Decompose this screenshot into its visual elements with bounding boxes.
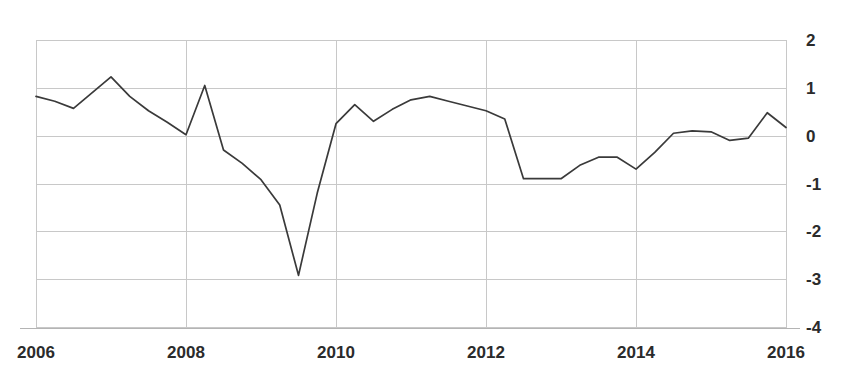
plot-area-border [36,40,786,327]
y-tick-label--2: -2 [806,222,821,241]
y-tick-label-1: 1 [806,79,815,98]
y-tick-label-0: 0 [806,127,815,146]
vertical-gridlines [37,40,787,327]
x-tick-label-2008: 2008 [167,343,205,362]
y-tick-label--1: -1 [806,175,821,194]
x-tick-label-2010: 2010 [317,343,355,362]
horizontal-gridlines [36,41,786,328]
y-axis-tick-labels: 210-1-2-3-4 [806,31,822,337]
y-tick-label--4: -4 [806,318,822,337]
chart-canvas: 210-1-2-3-4 200620082010201220142016 [0,0,845,383]
y-tick-label--3: -3 [806,270,821,289]
y-tick-label-2: 2 [806,31,815,50]
data-series-line [36,77,786,276]
x-tick-label-2006: 2006 [17,343,55,362]
x-axis-tick-labels: 200620082010201220142016 [17,343,805,362]
x-tick-label-2016: 2016 [767,343,805,362]
x-tick-label-2012: 2012 [467,343,505,362]
line-chart: 210-1-2-3-4 200620082010201220142016 [0,0,845,383]
x-tick-label-2014: 2014 [617,343,655,362]
